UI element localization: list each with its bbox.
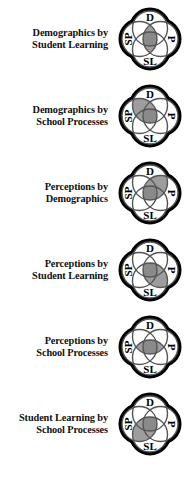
venn-diagram: DSLSPP (112, 386, 188, 462)
venn-row: Perceptions byStudent LearningDSLSPP (0, 231, 188, 308)
venn-row: Demographics byStudent LearningDSLSPP (0, 0, 188, 77)
row-label-line2: Demographics (4, 193, 108, 205)
venn-label-bottom: SL (143, 440, 156, 452)
venn-diagram: DSLSPP (112, 78, 188, 154)
row-label-line1: Perceptions by (4, 335, 108, 347)
venn-label-right: P (166, 112, 178, 119)
venn-label-right: P (166, 189, 178, 196)
row-label: Perceptions byDemographics (4, 181, 112, 205)
venn-label-right: P (166, 266, 178, 273)
venn-wrap: DSLSPP (112, 155, 188, 231)
row-label-line2: School Processes (4, 116, 108, 128)
row-label-line1: Perceptions by (4, 181, 108, 193)
row-label: Perceptions byStudent Learning (4, 258, 112, 282)
row-label: Demographics byStudent Learning (4, 27, 112, 51)
venn-diagram: DSLSPP (112, 155, 188, 231)
venn-wrap: DSLSPP (112, 309, 188, 385)
venn-row: Student Learning bySchool ProcessesDSLSP… (0, 385, 188, 462)
venn-diagram: DSLSPP (112, 232, 188, 308)
row-label-line1: Demographics by (4, 27, 108, 39)
venn-label-right: P (166, 420, 178, 427)
venn-wrap: DSLSPP (112, 386, 188, 462)
venn-label-bottom: SL (143, 363, 156, 375)
venn-label-left: SP (122, 263, 134, 276)
venn-row: Perceptions byDemographicsDSLSPP (0, 154, 188, 231)
row-label-line2: Student Learning (4, 39, 108, 51)
row-label-line1: Student Learning by (4, 412, 108, 424)
venn-label-left: SP (122, 109, 134, 122)
venn-label-bottom: SL (143, 132, 156, 144)
venn-label-top: D (146, 319, 154, 331)
venn-label-right: P (166, 343, 178, 350)
venn-label-left: SP (122, 32, 134, 45)
row-label-line2: School Processes (4, 347, 108, 359)
row-label: Demographics bySchool Processes (4, 104, 112, 128)
venn-label-top: D (146, 396, 154, 408)
venn-diagram-figure: Demographics byStudent LearningDSLSPPDem… (0, 0, 188, 490)
venn-row: Perceptions bySchool ProcessesDSLSPP (0, 308, 188, 385)
venn-wrap: DSLSPP (112, 78, 188, 154)
venn-wrap: DSLSPP (112, 1, 188, 77)
venn-diagram: DSLSPP (112, 1, 188, 77)
row-label: Perceptions bySchool Processes (4, 335, 112, 359)
row-label-line2: School Processes (4, 424, 108, 436)
row-label-line1: Demographics by (4, 104, 108, 116)
venn-label-bottom: SL (143, 209, 156, 221)
venn-label-top: D (146, 11, 154, 23)
venn-label-left: SP (122, 186, 134, 199)
venn-label-bottom: SL (143, 55, 156, 67)
row-label-line2: Student Learning (4, 270, 108, 282)
venn-wrap: DSLSPP (112, 232, 188, 308)
venn-label-bottom: SL (143, 286, 156, 298)
venn-row: Demographics bySchool ProcessesDSLSPP (0, 77, 188, 154)
venn-label-right: P (166, 35, 178, 42)
venn-label-left: SP (122, 417, 134, 430)
venn-diagram: DSLSPP (112, 309, 188, 385)
row-label: Student Learning bySchool Processes (4, 412, 112, 436)
venn-label-top: D (146, 165, 154, 177)
venn-label-top: D (146, 242, 154, 254)
venn-label-top: D (146, 88, 154, 100)
venn-label-left: SP (122, 340, 134, 353)
row-label-line1: Perceptions by (4, 258, 108, 270)
